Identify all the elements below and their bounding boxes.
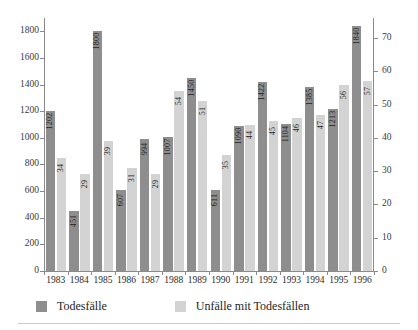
left-axis-tick-label: 200 [25,239,39,249]
bar-todesfaelle[interactable]: 1800 [93,31,103,271]
x-axis-year-label: 1983 [44,275,68,285]
bar-value-label: 34 [57,164,65,172]
bar-value-label: 451 [70,215,78,228]
bar-unfaelle-mit-todesfaellen[interactable]: 57 [363,81,373,271]
bar-value-label: 1202 [46,113,54,130]
bar-todesfaelle[interactable]: 607 [116,190,126,271]
bar-unfaelle-mit-todesfaellen[interactable]: 35 [222,155,232,272]
bar-value-label: 1104 [282,126,290,143]
bar-todesfaelle[interactable]: 451 [69,211,79,271]
bar-unfaelle-mit-todesfaellen[interactable]: 47 [316,115,326,271]
bar-group: 145051 [185,18,209,271]
bar-value-label: 47 [317,120,325,128]
bar-todesfaelle[interactable]: 1422 [258,82,268,271]
right-axis-tick-label: 0 [382,266,387,276]
x-axis-year-label: 1990 [209,275,233,285]
bar-todesfaelle[interactable]: 1450 [187,78,197,271]
bar-value-label: 1007 [164,139,172,156]
left-axis-tick-label: 1800 [20,26,39,36]
x-axis-year-label: 1988 [162,275,186,285]
bar-todesfaelle[interactable]: 1213 [328,109,338,271]
bar-group: 184057 [350,18,374,271]
bar-unfaelle-mit-todesfaellen[interactable]: 51 [198,101,208,271]
right-axis-tick-label: 60 [382,66,392,76]
bar-group: 138547 [303,18,327,271]
bar-value-label: 29 [152,180,160,188]
bar-group: 180039 [91,18,115,271]
right-axis-tick [374,38,378,39]
right-axis-tick [374,71,378,72]
bar-unfaelle-mit-todesfaellen[interactable]: 44 [245,125,255,271]
bar-todesfaelle[interactable]: 1385 [305,87,315,271]
bar-group: 120234 [44,18,68,271]
bar-value-label: 1422 [258,83,266,100]
left-axis-tick-label: 1000 [20,133,39,143]
left-axis-tick-label: 1200 [20,106,39,116]
right-axis-tick-label: 30 [382,166,392,176]
bar-todesfaelle[interactable]: 1007 [163,137,173,271]
bar-todesfaelle[interactable]: 994 [140,139,150,271]
bar-value-label: 1090 [235,127,243,144]
x-axis-tick [374,271,375,275]
bar-value-label: 57 [364,87,372,95]
bar-unfaelle-mit-todesfaellen[interactable]: 46 [292,118,302,271]
right-axis-tick [374,238,378,239]
bar-group: 121356 [327,18,351,271]
bar-unfaelle-mit-todesfaellen[interactable]: 34 [57,158,67,271]
bar-value-label: 51 [199,107,207,115]
bar-group: 61135 [209,18,233,271]
right-axis-tick-label: 50 [382,100,392,110]
left-axis-tick-label: 1600 [20,53,39,63]
bar-todesfaelle[interactable]: 1202 [46,111,56,271]
chart-legend: Todesfälle Unfälle mit Todesfällen [36,300,309,312]
legend-item-unfaelle-mit-todesfaellen: Unfälle mit Todesfällen [175,300,310,312]
x-axis-year-label: 1993 [280,275,304,285]
bar-value-label: 1840 [353,28,361,45]
right-axis-tick [374,105,378,106]
bar-value-label: 44 [246,130,254,138]
bar-value-label: 46 [293,124,301,132]
bar-todesfaelle[interactable]: 1104 [281,124,291,271]
bar-todesfaelle[interactable]: 611 [211,190,221,271]
bar-value-label: 1213 [329,111,337,128]
bar-unfaelle-mit-todesfaellen[interactable]: 31 [127,168,137,271]
bar-value-label: 1385 [306,88,314,105]
bar-value-label: 994 [141,142,149,155]
legend-label: Unfälle mit Todesfällen [196,300,310,312]
left-axis-tick-label: 0 [34,266,39,276]
right-axis-tick-label: 10 [382,233,392,243]
bar-todesfaelle[interactable]: 1090 [234,126,244,271]
bar-unfaelle-mit-todesfaellen[interactable]: 54 [174,91,184,271]
bar-value-label: 1450 [188,80,196,97]
left-axis-tick-label: 800 [25,159,39,169]
bar-group: 45129 [68,18,92,271]
bar-todesfaelle[interactable]: 1840 [352,26,362,271]
x-axis-year-label: 1989 [185,275,209,285]
bar-value-label: 611 [211,193,219,205]
x-axis-year-label: 1984 [68,275,92,285]
bar-unfaelle-mit-todesfaellen[interactable]: 29 [80,174,90,271]
legend-item-todesfaelle: Todesfälle [36,300,107,312]
bar-group: 110446 [280,18,304,271]
bar-group: 142245 [256,18,280,271]
bar-chart: 020040060080010001200140016001800 010203… [0,0,418,330]
bar-value-label: 1800 [93,33,101,50]
right-axis-tick [374,138,378,139]
legend-swatch-icon [36,301,47,312]
right-axis-tick-label: 20 [382,199,392,209]
bar-unfaelle-mit-todesfaellen[interactable]: 39 [104,141,114,271]
bar-group: 60731 [115,18,139,271]
right-axis-tick-label: 40 [382,133,392,143]
bottom-divider [18,323,400,324]
bar-group: 100754 [162,18,186,271]
bar-group: 99429 [138,18,162,271]
bar-unfaelle-mit-todesfaellen[interactable]: 45 [269,121,279,271]
left-axis-tick-label: 1400 [20,80,39,90]
bar-unfaelle-mit-todesfaellen[interactable]: 56 [339,85,349,271]
bar-unfaelle-mit-todesfaellen[interactable]: 29 [151,174,161,271]
bar-value-label: 54 [175,97,183,105]
x-axis-year-label: 1985 [91,275,115,285]
bar-value-label: 56 [340,90,348,98]
x-axis-year-label: 1995 [327,275,351,285]
x-axis-year-label: 1996 [350,275,374,285]
